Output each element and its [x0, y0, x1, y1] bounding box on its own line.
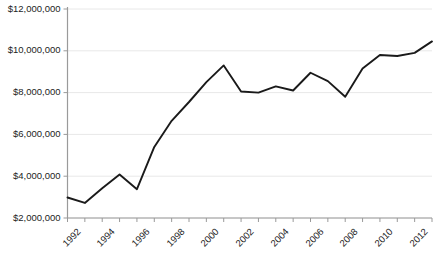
- data-series-line: [68, 41, 433, 203]
- line-chart: $12,000,000$10,000,000$8,000,000$6,000,0…: [0, 0, 435, 273]
- y-axis-tick-label: $2,000,000: [13, 212, 61, 223]
- y-axis-tick-label: $4,000,000: [13, 170, 61, 181]
- y-axis-tick-label: $12,000,000: [8, 3, 61, 14]
- y-axis-tick-label: $10,000,000: [8, 44, 61, 55]
- y-axis-tick-label: $8,000,000: [13, 86, 61, 97]
- y-axis-tick-label: $6,000,000: [13, 128, 61, 139]
